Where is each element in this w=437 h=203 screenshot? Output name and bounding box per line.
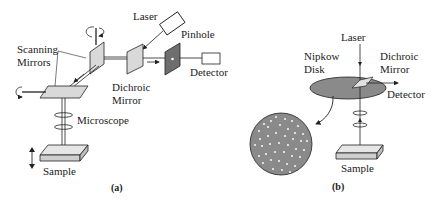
nipkow-disk bbox=[310, 77, 386, 99]
panel-b: Laser Nipkow Disk Dichroic Mirror Detect… bbox=[250, 31, 425, 193]
label-disk: Disk bbox=[304, 63, 325, 75]
label-sample-b: Sample bbox=[341, 162, 374, 174]
sample-stage-b bbox=[336, 145, 383, 159]
nipkow-disk-magnified bbox=[250, 113, 312, 175]
objective-lens-1 bbox=[55, 113, 73, 118]
label-scanning: Scanning bbox=[17, 43, 58, 55]
label-dichroic-b: Dichroic bbox=[380, 50, 419, 62]
label-mirrors: Mirrors bbox=[17, 56, 51, 68]
detector-a bbox=[202, 53, 220, 64]
label-dichroic-a: Dichroic bbox=[112, 81, 151, 93]
label-laser-a: Laser bbox=[133, 10, 158, 22]
dichroic-mirror-a bbox=[127, 44, 143, 74]
confocal-microscopy-figure: Laser Pinhole Scanning Mirrors Detector … bbox=[0, 0, 437, 203]
objective-lens-2 bbox=[55, 125, 73, 130]
label-microscope: Microscope bbox=[77, 114, 129, 126]
panel-a: Laser Pinhole Scanning Mirrors Detector … bbox=[16, 10, 228, 194]
sample-stage-a bbox=[40, 145, 88, 161]
label-detector-a: Detector bbox=[190, 66, 228, 78]
caption-a: (a) bbox=[111, 182, 123, 194]
caption-b: (b) bbox=[332, 181, 344, 193]
label-pinhole: Pinhole bbox=[181, 28, 215, 40]
label-laser-b: Laser bbox=[341, 31, 366, 43]
label-detector-b: Detector bbox=[387, 88, 425, 100]
label-mirror-b: Mirror bbox=[380, 63, 410, 75]
label-sample-a: Sample bbox=[43, 165, 76, 177]
scanning-mirror-upper bbox=[90, 42, 104, 74]
label-mirror-a: Mirror bbox=[112, 94, 142, 106]
label-nipkow: Nipkow bbox=[304, 50, 340, 62]
scanning-mirror-lower bbox=[40, 86, 88, 98]
